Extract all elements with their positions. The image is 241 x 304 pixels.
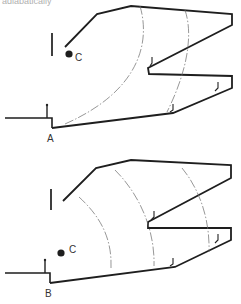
diagram-top: C A bbox=[5, 6, 232, 144]
label-a: A bbox=[47, 133, 54, 144]
label-b: B bbox=[45, 288, 52, 299]
person-marker-b bbox=[44, 259, 46, 273]
ground-line-b bbox=[5, 273, 50, 283]
ground-line-a bbox=[5, 118, 52, 128]
cutoff-caption: adiabatically bbox=[2, 0, 52, 6]
cross-section-outline-bottom bbox=[50, 160, 231, 283]
arc-inner-top bbox=[65, 6, 143, 124]
center-point-c-top bbox=[65, 50, 72, 57]
hook-marker bbox=[215, 82, 218, 91]
arc-middle-bottom bbox=[115, 170, 154, 266]
diagram-bottom: C B bbox=[5, 160, 231, 299]
hook-marker bbox=[170, 258, 173, 266]
center-point-c-bottom bbox=[57, 249, 64, 256]
hook-marker bbox=[215, 234, 218, 243]
cross-section-outline-top bbox=[52, 6, 232, 128]
label-c-bottom: C bbox=[69, 244, 76, 255]
arc-middle-top bbox=[167, 10, 189, 112]
person-marker-a bbox=[46, 104, 48, 118]
diagram-canvas: adiabatically C A C bbox=[0, 0, 241, 304]
hook-marker bbox=[150, 57, 152, 66]
label-c-top: C bbox=[75, 52, 82, 63]
arc-inner-bottom bbox=[79, 197, 111, 268]
arc-outer-bottom bbox=[182, 168, 209, 252]
